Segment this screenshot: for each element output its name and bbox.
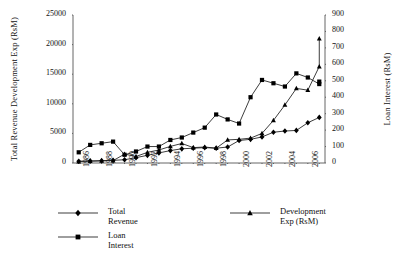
y-tick-label-left: 25000	[26, 9, 66, 18]
data-point-square	[260, 78, 264, 82]
data-point-square	[180, 135, 184, 139]
data-point-square	[271, 81, 275, 85]
chart-legend: Total RevenueDevelopment Exp (RsM)Loan I…	[56, 205, 376, 251]
data-point-square	[237, 121, 241, 125]
data-point-square	[317, 80, 321, 84]
data-point-square	[294, 71, 298, 75]
plot-area	[72, 14, 324, 162]
legend-marker-square	[56, 231, 100, 243]
y-tick-label-right: 600	[332, 58, 372, 67]
legend-marker-triangle	[228, 207, 272, 219]
legend-label: Total Revenue	[108, 206, 138, 226]
y-tick-label-left: 0	[26, 157, 66, 166]
series-triangle	[76, 36, 321, 163]
data-point-diamond	[179, 146, 184, 152]
data-point-square	[157, 144, 161, 148]
data-point-square	[77, 150, 81, 154]
data-point-triangle	[294, 86, 299, 91]
y-axis-right-title: Loan Interest (RsM)	[382, 14, 392, 164]
y-tick-label-right: 700	[332, 42, 372, 51]
legend-marker-diamond	[56, 207, 100, 219]
y-tick-label-left: 20000	[26, 39, 66, 48]
legend-label: Loan Interest	[108, 230, 133, 250]
data-point-diamond	[271, 129, 276, 135]
data-point-diamond	[317, 115, 322, 121]
y-tick-label-right: 200	[332, 124, 372, 133]
data-point-diamond	[168, 148, 173, 154]
y-tick-label-right: 0	[332, 157, 372, 166]
data-point-diamond	[75, 210, 81, 216]
legend-label: Development Exp (RsM)	[280, 206, 326, 226]
data-point-square	[203, 126, 207, 130]
data-point-diamond	[305, 120, 310, 126]
data-point-diamond	[294, 128, 299, 134]
data-point-triangle	[202, 144, 207, 149]
data-point-diamond	[282, 128, 287, 134]
data-point-square	[100, 141, 104, 145]
y-tick-label-right: 500	[332, 75, 372, 84]
data-point-square	[226, 117, 230, 121]
data-point-square	[88, 143, 92, 147]
chart-figure: Total Revenue Development Exp (RsM) Loan…	[0, 0, 400, 256]
data-point-triangle	[317, 36, 322, 41]
data-point-square	[145, 144, 149, 148]
data-point-square	[248, 95, 252, 99]
data-point-square	[214, 112, 218, 116]
series-line-diamond	[79, 117, 320, 161]
data-point-diamond	[225, 144, 230, 150]
data-point-square	[168, 138, 172, 142]
series-square	[77, 71, 322, 157]
y-tick-label-left: 5000	[26, 127, 66, 136]
y-tick-label-right: 300	[332, 108, 372, 117]
y-tick-label-right: 800	[332, 25, 372, 34]
data-point-square	[111, 140, 115, 144]
data-point-triangle	[317, 64, 322, 69]
data-point-square	[134, 149, 138, 153]
y-tick-label-right: 400	[332, 91, 372, 100]
data-point-square	[76, 235, 81, 240]
series-diamond	[76, 115, 321, 164]
data-point-square	[306, 75, 310, 79]
y-tick-label-right: 100	[332, 141, 372, 150]
data-point-square	[122, 153, 126, 157]
data-point-square	[283, 84, 287, 88]
data-point-diamond	[122, 157, 127, 163]
y-tick-label-right: 900	[332, 9, 372, 18]
y-tick-label-left: 10000	[26, 98, 66, 107]
data-point-triangle	[179, 141, 184, 146]
y-tick-label-left: 15000	[26, 68, 66, 77]
data-point-square	[191, 130, 195, 134]
y-axis-left-title: Total Revenue Development Exp (RsM)	[9, 14, 19, 164]
